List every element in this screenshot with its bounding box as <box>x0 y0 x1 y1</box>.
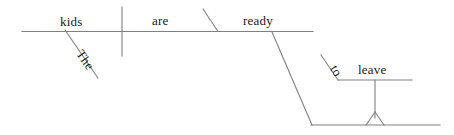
predicate-adjective-slant <box>203 9 218 32</box>
word-subject: kids <box>60 15 82 28</box>
pedestal-foot-left <box>366 112 375 125</box>
word-verb: are <box>152 14 168 27</box>
word-infinitive-verb: leave <box>358 63 386 76</box>
sentence-diagram: kids The are ready to leave <box>0 0 454 135</box>
pedestal-foot-right <box>375 112 384 125</box>
word-predicate-adjective: ready <box>243 14 273 27</box>
infinitive-connector-slant <box>272 32 312 125</box>
